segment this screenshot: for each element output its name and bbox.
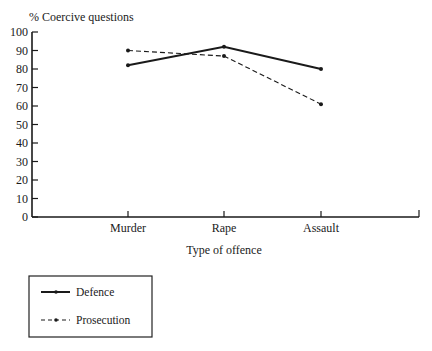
series-line-prosecution [128, 51, 321, 105]
y-tick-label: 40 [16, 136, 28, 150]
legend-item-prosecution: Prosecution [41, 314, 131, 326]
marker-icon [54, 318, 58, 322]
y-tick-label: 90 [16, 44, 28, 58]
x-tick-label: Rape [212, 221, 237, 235]
x-axis: MurderRapeAssault [32, 210, 419, 235]
marker-icon [54, 290, 58, 294]
data-point [319, 67, 323, 71]
y-tick-label: 20 [16, 173, 28, 187]
y-axis-label: % Coercive questions [29, 10, 134, 24]
y-tick-label: 30 [16, 155, 28, 169]
y-axis: 0102030405060708090100 [10, 25, 38, 224]
legend: Defence Prosecution [29, 276, 152, 337]
legend-item-defence: Defence [41, 286, 114, 298]
legend-label-prosecution: Prosecution [76, 314, 131, 326]
y-tick-label: 100 [10, 25, 28, 39]
y-tick-label: 60 [16, 99, 28, 113]
plot-area [126, 45, 323, 106]
x-axis-label: Type of offence [186, 243, 262, 257]
y-tick-label: 80 [16, 62, 28, 76]
legend-label-defence: Defence [76, 286, 114, 298]
y-tick-label: 10 [16, 192, 28, 206]
data-point [222, 54, 226, 58]
data-point [222, 45, 226, 49]
line-chart: % Coercive questions 0102030405060708090… [0, 0, 432, 351]
data-point [319, 102, 323, 106]
y-tick-label: 70 [16, 81, 28, 95]
y-tick-label: 50 [16, 118, 28, 132]
x-tick-label: Assault [303, 221, 340, 235]
y-tick-label: 0 [22, 210, 28, 224]
x-tick-label: Murder [110, 221, 146, 235]
data-point [126, 49, 130, 53]
data-point [126, 63, 130, 67]
